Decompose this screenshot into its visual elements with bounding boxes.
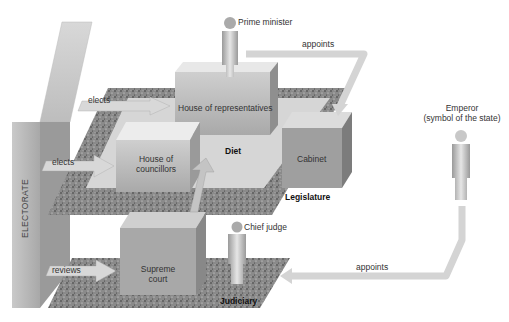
diet-label: Diet	[225, 147, 241, 157]
reviews-label: reviews	[52, 266, 81, 276]
emperor-line1: Emperor	[446, 103, 479, 113]
pm-appoints-label: appoints	[302, 40, 334, 50]
emperor-line2: (symbol of the state)	[423, 113, 500, 123]
emperor-appoints-label: appoints	[356, 263, 388, 273]
emperor-label: Emperor (symbol of the state)	[420, 104, 504, 124]
house-of-councillors-line2: councillors	[136, 164, 176, 174]
supreme-court-line1: Supreme	[141, 264, 176, 274]
house-of-councillors-line1: House of	[139, 154, 173, 164]
house-of-councillors-label: House of councillors	[126, 155, 186, 175]
judiciary-label: Judiciary	[220, 297, 257, 307]
electorate-label: ELECTORATE	[21, 179, 31, 238]
supreme-court-line2: court	[149, 274, 168, 284]
cabinet-label: Cabinet	[297, 155, 326, 165]
chief-judge-label: Chief judge	[244, 223, 287, 233]
legislature-label: Legislature	[285, 193, 330, 203]
elects-councillors-label: elects	[52, 158, 74, 168]
house-of-representatives-label: House of representatives	[178, 104, 273, 114]
emperor-figure	[452, 130, 470, 200]
prime-minister-label: Prime minister	[238, 18, 292, 28]
cabinet-block	[282, 112, 352, 188]
supreme-court-label: Supreme court	[126, 265, 190, 285]
elects-representatives-label: elects	[88, 96, 110, 106]
